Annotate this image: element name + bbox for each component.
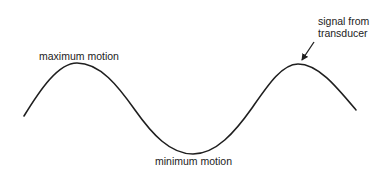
signal-from-transducer-label: signal from transducer (318, 16, 369, 39)
signal-label-line-1: signal from (318, 16, 369, 28)
pointer-arrow (302, 42, 314, 60)
sine-wave-curve (24, 63, 356, 154)
signal-label-line-2: transducer (318, 28, 369, 40)
minimum-motion-label: minimum motion (155, 155, 232, 167)
maximum-motion-label: maximum motion (39, 50, 119, 62)
transducer-signal-diagram: maximum motion minimum motion signal fro… (0, 0, 389, 178)
